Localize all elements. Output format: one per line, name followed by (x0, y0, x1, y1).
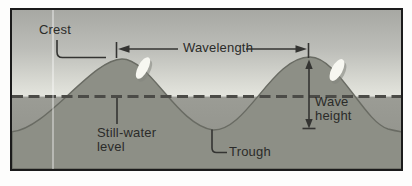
wave-height-label: Waveheight (315, 95, 352, 123)
still-water-label: Still-water level (97, 126, 156, 154)
wave-height-label-line1: Wave (315, 95, 352, 109)
wave-height-label-line2: height (315, 109, 352, 123)
still-water-label-line1: Still-water (97, 126, 156, 140)
crest-label: Crest (39, 23, 71, 37)
trough-label: Trough (229, 145, 271, 159)
figure-frame: Crest Wavelength Waveheight Still-water … (10, 8, 403, 171)
still-water-label-line2: level (97, 140, 156, 154)
wavelength-label: Wavelength (178, 41, 258, 55)
